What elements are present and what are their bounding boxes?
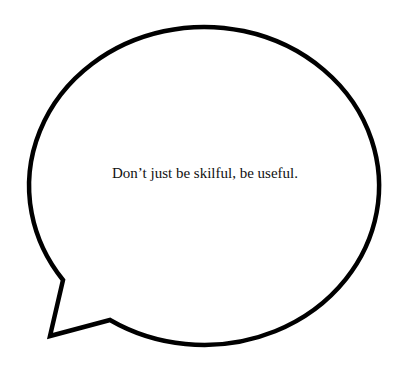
canvas: Don’t just be skilful, be useful.: [0, 0, 402, 371]
speech-bubble-shape: [0, 0, 402, 371]
speech-bubble-text: Don’t just be skilful, be useful.: [0, 165, 402, 182]
